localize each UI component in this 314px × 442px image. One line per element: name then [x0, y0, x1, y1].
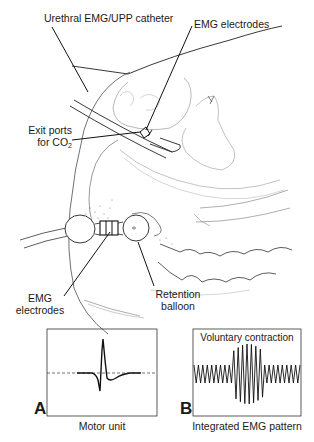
panel-a-motor-unit-waveform: [77, 339, 141, 391]
body-contour: [72, 26, 282, 74]
leader-emg-electrodes-top: [146, 26, 192, 130]
vagina: [120, 150, 280, 189]
panel-b-emg-waveform: [194, 344, 300, 404]
urethral-catheter: [70, 106, 166, 158]
catheter-tip: [150, 138, 180, 152]
panel-a-letter: A: [34, 400, 46, 418]
uterus: [182, 96, 235, 170]
label-urethral-catheter: Urethral EMG/UPP catheter: [44, 12, 173, 24]
label-emg-electrodes-top: EMG electrodes: [194, 18, 269, 30]
label-emg-electrodes-bottom-line2: electrodes: [10, 304, 70, 316]
panel-b-caption: Integrated EMG pattern: [188, 420, 306, 432]
label-emg-electrodes-bottom: EMG electrodes: [10, 292, 70, 316]
panel-a-caption: Motor unit: [47, 420, 157, 432]
retention-balloon-shape: [123, 215, 149, 241]
label-emg-electrodes-bottom-line1: EMG: [10, 292, 70, 304]
label-exit-ports-line2: for CO2: [26, 136, 72, 152]
panel-b-letter: B: [180, 400, 192, 418]
anatomy-illustration: [0, 0, 314, 442]
label-exit-ports-line1: Exit ports: [26, 124, 72, 136]
rectum: [160, 244, 292, 256]
label-exit-ports: Exit ports for CO2: [26, 124, 72, 152]
pelvic-contour: [69, 72, 130, 334]
label-retention-balloon-line2: balloon: [148, 300, 208, 312]
panel-b-title: Voluntary contraction: [193, 332, 301, 343]
anal-probe-cable: [20, 228, 66, 240]
label-retention-balloon-line1: Retention: [148, 288, 208, 300]
anal-probe-bulb: [65, 215, 95, 243]
label-retention-balloon: Retention balloon: [148, 288, 208, 312]
pubic-bone: [89, 140, 118, 222]
leader-urethral-catheter: [52, 27, 88, 92]
bladder: [113, 78, 191, 130]
leader-retention-balloon: [138, 242, 154, 286]
emg-trace: [194, 344, 300, 404]
